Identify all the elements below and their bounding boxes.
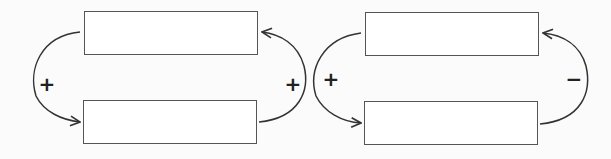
loop1-right-sign: + bbox=[285, 74, 302, 94]
loop1-top-box bbox=[84, 11, 258, 55]
loop1-left-sign: + bbox=[39, 74, 56, 94]
loop2-top-box bbox=[365, 12, 539, 56]
loop1-bottom-box bbox=[83, 100, 257, 144]
loop2-right-sign: − bbox=[566, 69, 583, 89]
loop2-left-sign: + bbox=[323, 69, 340, 89]
loop2-bottom-box bbox=[364, 101, 538, 145]
